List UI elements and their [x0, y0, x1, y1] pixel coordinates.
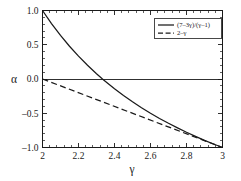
y-axis-title: α: [11, 73, 17, 85]
y-tick-labels: 1.00.50.0–0.5–1.0: [21, 6, 39, 153]
legend-label-0: (7–3γ)/(γ–1): [177, 21, 210, 29]
series-line-dashed: [43, 79, 223, 148]
x-tick-labels: 22.22.42.62.83: [40, 151, 225, 161]
y-tick-label-4: –1.0: [21, 143, 39, 153]
chart-legend: (7–3γ)/(γ–1) 2–γ: [155, 19, 222, 39]
x-tick-label-1: 2.2: [73, 151, 85, 161]
chart-figure: 22.22.42.62.83 1.00.50.0–0.5–1.0 γ α (7–…: [0, 0, 241, 181]
x-axis-title: γ: [128, 163, 134, 176]
x-tick-label-5: 3: [220, 151, 225, 161]
y-tick-label-1: 0.5: [27, 40, 39, 50]
x-tick-label-2: 2.4: [109, 151, 121, 161]
y-tick-label-2: 0.0: [27, 74, 39, 84]
legend-label-1: 2–γ: [177, 29, 187, 36]
plot-canvas: 22.22.42.62.83 1.00.50.0–0.5–1.0 γ α (7–…: [0, 0, 241, 181]
y-tick-label-0: 1.0: [27, 6, 39, 16]
y-tick-label-3: –0.5: [21, 109, 39, 119]
x-tick-label-4: 2.8: [181, 151, 193, 161]
x-tick-label-0: 2: [40, 151, 45, 161]
x-tick-label-3: 2.6: [145, 151, 157, 161]
